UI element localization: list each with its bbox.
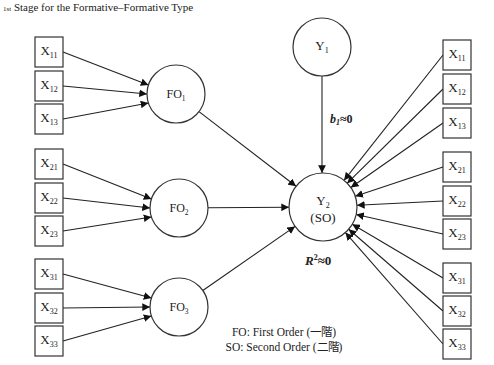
construct-y2: Y2(SO)	[289, 173, 357, 241]
indicator-r_x11: X11	[443, 40, 471, 70]
legend-second-order: SO: Second Order (二階)	[226, 340, 343, 354]
indicator-arrow	[63, 217, 151, 231]
indicator-l_x11: X11	[35, 37, 63, 67]
indicator-r_x31: X31	[443, 263, 471, 293]
construct-fo1: FO1	[147, 65, 205, 123]
indicator-arrow	[63, 198, 150, 208]
indicator-arrow	[63, 86, 147, 94]
indicator-l_x23: X23	[35, 216, 63, 246]
path-coefficient-b1: b1≈0	[330, 112, 353, 127]
indicator-r_x23: X23	[443, 219, 471, 249]
indicator-l_x22: X22	[35, 183, 63, 213]
indicator-r_x32: X32	[443, 296, 471, 326]
construct-sublabel: (SO)	[310, 210, 335, 225]
path-arrow	[347, 89, 443, 183]
path-arrow	[352, 224, 443, 278]
path-arrow	[356, 214, 443, 234]
path-arrow	[357, 201, 443, 205]
indicator-l_x31: X31	[35, 259, 63, 289]
indicator-l_x12: X12	[35, 71, 63, 101]
indicator-r_x22: X22	[443, 186, 471, 216]
indicator-l_x33: X33	[35, 326, 63, 356]
indicator-r_x13: X13	[443, 108, 471, 138]
construct-y1: Y1	[293, 18, 351, 76]
path-arrow	[208, 207, 289, 208]
indicator-r_x33: X33	[443, 329, 471, 359]
path-arrow	[344, 55, 443, 180]
legend-first-order: FO: First Order (一階)	[232, 325, 336, 339]
indicator-r_x21: X21	[443, 152, 471, 182]
path-arrow	[351, 123, 443, 188]
indicator-l_x13: X13	[35, 104, 63, 134]
path-arrow	[355, 167, 443, 196]
indicator-l_x32: X32	[35, 293, 63, 323]
construct-fo2: FO2	[150, 179, 208, 237]
indicator-arrow	[63, 52, 148, 85]
indicator-arrow	[63, 316, 151, 341]
construct-fo3: FO3	[150, 278, 208, 336]
indicator-arrow	[63, 274, 151, 298]
path-diagram: X11X12X13X21X22X23X31X32X33X11X12X13X21X…	[0, 0, 494, 365]
indicator-arrow	[63, 103, 148, 119]
path-arrow	[203, 226, 295, 290]
indicator-arrow	[63, 164, 151, 199]
edges	[63, 52, 443, 344]
indicator-r_x12: X12	[443, 74, 471, 104]
r-squared-label: R2≈0	[304, 253, 331, 268]
path-arrow	[199, 112, 296, 187]
indicator-arrow	[63, 307, 150, 308]
indicator-l_x21: X21	[35, 149, 63, 179]
legend: FO: First Order (一階) SO: Second Order (二…	[226, 325, 343, 354]
